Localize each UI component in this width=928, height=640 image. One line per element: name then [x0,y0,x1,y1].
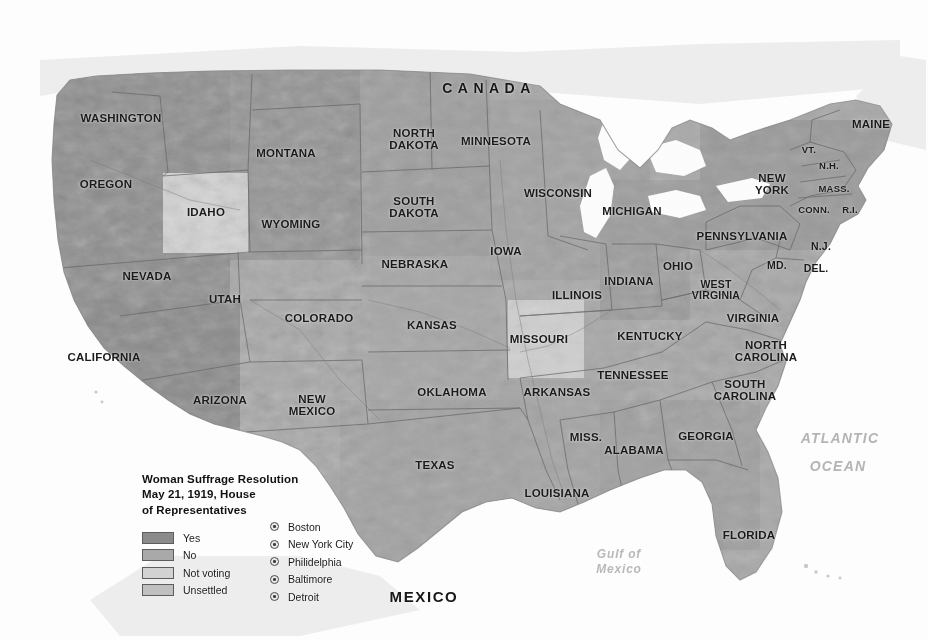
city-marker-icon [270,522,279,531]
legend-city-label: Boston [288,521,321,533]
legend-swatch-row: Yes [142,529,392,547]
legend-city-label: Philidelphia [288,556,342,568]
legend-city-row: Boston [270,518,353,536]
legend-swatch-row: No [142,546,392,564]
legend-swatch-yes [142,532,174,544]
map-legend: Woman Suffrage Resolution May 21, 1919, … [142,472,392,599]
legend-swatch-label: No [183,549,196,561]
legend-swatch-label: Not voting [183,567,230,579]
legend-city-label: Baltimore [288,573,332,585]
legend-swatch-not-voting [142,567,174,579]
legend-city-row: Baltimore [270,571,353,589]
legend-city-row: Philidelphia [270,553,353,571]
legend-city-label: New York City [288,538,353,550]
map-figure: WASHINGTONOREGONIDAHOMONTANAWYOMINGNEVAD… [0,0,928,640]
legend-swatch-no [142,549,174,561]
legend-city-list: BostonNew York CityPhilidelphiaBaltimore… [270,518,353,606]
legend-swatch-label: Yes [183,532,200,544]
map-canvas [0,0,928,640]
legend-city-row: Detroit [270,588,353,606]
legend-title: Woman Suffrage Resolution May 21, 1919, … [142,472,392,518]
legend-swatch-label: Unsettled [183,584,227,596]
legend-swatch-row: Unsettled [142,581,392,599]
city-marker-icon [270,557,279,566]
legend-swatch-unsettled [142,584,174,596]
legend-swatch-row: Not voting [142,564,392,582]
city-marker-icon [270,540,279,549]
legend-swatch-list: YesNoNot votingUnsettled [142,529,392,599]
city-marker-icon [270,575,279,584]
legend-city-label: Detroit [288,591,319,603]
legend-city-row: New York City [270,536,353,554]
city-marker-icon [270,592,279,601]
